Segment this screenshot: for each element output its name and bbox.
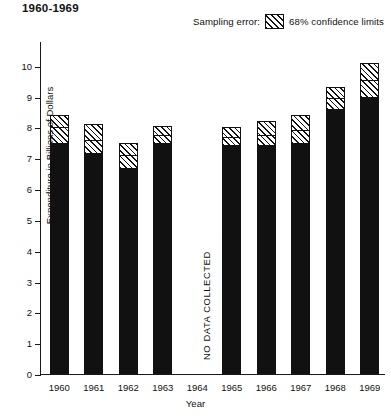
y-tick-mark	[35, 128, 41, 129]
legend-entry-label: 68% confidence limits	[289, 16, 384, 27]
bar-group[interactable]	[360, 63, 379, 374]
bar-solid	[257, 146, 276, 374]
y-tick-mark	[35, 67, 41, 68]
bar-group[interactable]	[153, 126, 172, 374]
confidence-interval-midline	[258, 135, 275, 136]
no-data-annotation: NO DATA COLLECTED	[201, 251, 212, 360]
confidence-interval-midline	[223, 137, 240, 138]
confidence-interval-midline	[120, 155, 137, 156]
y-tick-label: 7	[6, 154, 32, 164]
confidence-interval-midline	[85, 140, 102, 141]
x-axis-title: Year	[0, 398, 391, 409]
y-tick-label-group: 012345678910	[6, 42, 32, 375]
confidence-interval-midline	[292, 130, 309, 131]
y-axis-line	[40, 42, 41, 375]
confidence-interval-band	[291, 115, 310, 144]
hatched-swatch-icon	[265, 14, 284, 29]
chart-title: 1960-1969	[22, 2, 79, 14]
confidence-interval-band	[84, 124, 103, 153]
x-tick-label: 1963	[146, 382, 181, 393]
bar-group[interactable]	[119, 143, 138, 374]
y-tick-mark	[35, 252, 41, 253]
x-tick-label: 1960	[42, 382, 77, 393]
x-axis-line	[40, 374, 385, 375]
bar-solid	[119, 169, 138, 374]
y-tick-label: 3	[6, 278, 32, 288]
y-tick-mark	[35, 375, 41, 376]
chart-figure: 1960-1969 Sampling error: 68% confidence…	[0, 0, 391, 416]
bar-group[interactable]	[257, 121, 276, 374]
x-tick-label: 1967	[284, 382, 319, 393]
y-tick-label: 0	[6, 370, 32, 380]
bar-solid	[360, 98, 379, 374]
y-axis-title: Expenditure in Billions of Dollars	[44, 51, 55, 261]
bar-group[interactable]	[326, 87, 345, 374]
y-tick-mark	[35, 283, 41, 284]
y-tick-mark	[35, 159, 41, 160]
bar-solid	[222, 146, 241, 374]
plot-area: 1960196119621963196419651966196719681969…	[40, 42, 385, 375]
y-tick-mark	[35, 344, 41, 345]
bar-solid	[84, 154, 103, 374]
confidence-interval-band	[153, 126, 172, 145]
bar-group[interactable]	[222, 127, 241, 374]
confidence-interval-band	[326, 87, 345, 110]
y-tick-label: 4	[6, 247, 32, 257]
bar-solid	[291, 144, 310, 374]
x-tick-label: 1966	[249, 382, 284, 393]
y-tick-mark	[35, 190, 41, 191]
y-tick-mark	[35, 313, 41, 314]
x-tick-label: 1964	[180, 382, 215, 393]
bar-solid	[153, 144, 172, 374]
y-tick-label: 5	[6, 216, 32, 226]
y-tick-label: 6	[6, 185, 32, 195]
x-tick-label: 1965	[215, 382, 250, 393]
confidence-interval-midline	[154, 135, 171, 136]
y-tick-label: 2	[6, 308, 32, 318]
x-tick-label: 1961	[77, 382, 112, 393]
y-tick-label: 1	[6, 339, 32, 349]
y-tick-mark	[35, 98, 41, 99]
confidence-interval-band	[119, 143, 138, 169]
confidence-interval-band	[360, 63, 379, 98]
y-tick-label: 9	[6, 93, 32, 103]
x-tick-label: 1962	[111, 382, 146, 393]
y-tick-mark	[35, 221, 41, 222]
legend-prefix-label: Sampling error:	[193, 16, 260, 27]
confidence-interval-midline	[327, 98, 344, 99]
x-tick-label: 1968	[318, 382, 353, 393]
confidence-interval-band	[257, 121, 276, 146]
bar-solid	[326, 110, 345, 374]
confidence-interval-band	[222, 127, 241, 146]
x-tick-label: 1969	[353, 382, 388, 393]
bar-group[interactable]	[291, 115, 310, 374]
y-tick-label: 10	[6, 62, 32, 72]
confidence-interval-midline	[361, 80, 378, 81]
bar-group[interactable]	[84, 124, 103, 374]
y-tick-label: 8	[6, 123, 32, 133]
chart-legend: Sampling error: 68% confidence limits	[193, 14, 384, 29]
